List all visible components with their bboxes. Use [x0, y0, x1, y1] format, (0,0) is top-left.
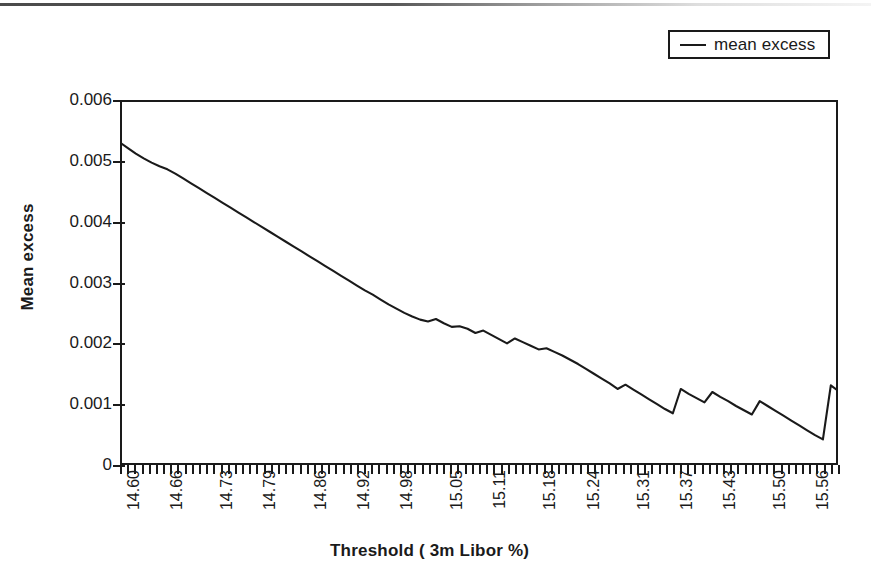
y-axis-title: Mean excess [18, 167, 38, 347]
x-tick-label: 15.50 [772, 470, 788, 510]
x-tick-mark [307, 465, 309, 474]
x-tick-mark [737, 465, 739, 474]
x-tick-mark [687, 465, 689, 474]
x-tick-mark [781, 465, 783, 474]
x-tick-mark [802, 465, 804, 474]
x-tick-mark [816, 465, 818, 474]
x-tick-mark [163, 465, 165, 474]
y-tick-mark [113, 343, 125, 345]
x-tick-mark [795, 465, 797, 474]
x-tick-mark [630, 465, 632, 474]
x-tick-mark [422, 465, 424, 474]
legend-line-swatch [680, 44, 706, 46]
y-tick-label: 0 [0, 456, 112, 473]
x-tick-mark [221, 465, 223, 474]
x-tick-mark [587, 465, 589, 474]
x-tick-mark [508, 465, 510, 474]
x-tick-label: 15.43 [722, 470, 738, 510]
x-tick-mark [529, 465, 531, 474]
scan-artifact-line [0, 3, 871, 6]
x-tick-mark [357, 465, 359, 474]
y-tick-mark [113, 283, 125, 285]
x-tick-mark [580, 465, 582, 474]
y-tick-mark [113, 100, 125, 102]
x-tick-mark [551, 465, 553, 474]
x-tick-mark [659, 465, 661, 474]
x-tick-mark [228, 465, 230, 474]
x-tick-mark [170, 465, 172, 474]
x-tick-mark [235, 465, 237, 474]
y-tick-label: 0.005 [0, 152, 112, 169]
y-axis-tick-labels: 00.0010.0020.0030.0040.0050.006 [0, 0, 112, 585]
x-tick-mark [185, 465, 187, 474]
x-tick-mark [809, 465, 811, 474]
x-tick-mark [120, 465, 122, 474]
y-tick-label: 0.001 [0, 395, 112, 412]
x-tick-mark [142, 465, 144, 474]
y-tick-label: 0.004 [0, 213, 112, 230]
x-tick-mark [285, 465, 287, 474]
x-tick-mark [156, 465, 158, 474]
x-tick-mark [831, 465, 833, 474]
x-tick-mark [199, 465, 201, 474]
x-tick-mark [673, 465, 675, 474]
x-tick-mark [206, 465, 208, 474]
x-tick-mark [371, 465, 373, 474]
x-tick-mark [192, 465, 194, 474]
x-tick-mark [443, 465, 445, 474]
x-tick-mark [350, 465, 352, 474]
x-tick-label: 15.56 [815, 470, 831, 510]
x-tick-mark [730, 465, 732, 474]
x-tick-mark [335, 465, 337, 474]
x-tick-label: 15.37 [679, 470, 695, 510]
x-tick-mark [709, 465, 711, 474]
y-tick-mark [113, 465, 125, 467]
x-tick-mark [256, 465, 258, 474]
x-tick-label: 14.92 [356, 470, 372, 510]
x-tick-label: 14.79 [262, 470, 278, 510]
x-tick-mark [759, 465, 761, 474]
x-tick-mark [702, 465, 704, 474]
x-tick-mark [465, 465, 467, 474]
x-tick-mark [321, 465, 323, 474]
x-tick-mark [680, 465, 682, 474]
x-tick-mark [694, 465, 696, 474]
y-tick-mark [113, 222, 125, 224]
x-tick-mark [271, 465, 273, 474]
x-tick-mark [544, 465, 546, 474]
x-tick-mark [493, 465, 495, 474]
x-tick-mark [450, 465, 452, 474]
x-tick-label: 14.60 [126, 470, 142, 510]
x-tick-label: 14.98 [399, 470, 415, 510]
x-tick-mark [824, 465, 826, 474]
x-tick-label: 14.73 [219, 470, 235, 510]
x-tick-mark [666, 465, 668, 474]
x-tick-mark [407, 465, 409, 474]
x-tick-mark [457, 465, 459, 474]
x-tick-mark [242, 465, 244, 474]
x-tick-mark [501, 465, 503, 474]
x-tick-mark [623, 465, 625, 474]
x-tick-mark [149, 465, 151, 474]
x-tick-mark [127, 465, 129, 474]
x-tick-mark [472, 465, 474, 474]
y-tick-mark [113, 161, 125, 163]
x-tick-mark [177, 465, 179, 474]
x-tick-mark [378, 465, 380, 474]
x-tick-mark [558, 465, 560, 474]
x-tick-mark [766, 465, 768, 474]
x-tick-mark [364, 465, 366, 474]
x-tick-mark [522, 465, 524, 474]
x-tick-mark [608, 465, 610, 474]
x-tick-mark [644, 465, 646, 474]
x-tick-mark [249, 465, 251, 474]
x-tick-mark [716, 465, 718, 474]
chart-legend: mean excess [668, 30, 830, 59]
x-tick-mark [264, 465, 266, 474]
x-tick-mark [278, 465, 280, 474]
y-tick-label: 0.003 [0, 274, 112, 291]
x-axis-title: Threshold ( 3m Libor %) [330, 541, 529, 561]
x-tick-mark [328, 465, 330, 474]
x-tick-mark [637, 465, 639, 474]
y-tick-mark [113, 404, 125, 406]
